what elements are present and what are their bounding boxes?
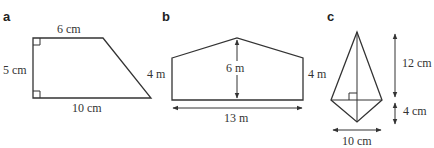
dim-label-base: 13 m <box>224 111 249 125</box>
dim-label-height: 6 m <box>226 61 245 75</box>
right-angle-marker-bottom <box>33 91 40 98</box>
figure-c: c 12 cm 4 cm 10 cm <box>327 9 432 148</box>
diagram-canvas: a 6 cm 5 cm 10 cm b 6 m 4 m 4 m 13 m c 1… <box>0 0 434 148</box>
dim-label-upper: 12 cm <box>402 56 432 70</box>
panel-label-c: c <box>327 9 334 24</box>
dim-label-lower: 4 cm <box>403 104 427 118</box>
figure-b: b 6 m 4 m 4 m 13 m <box>147 9 327 125</box>
panel-label-a: a <box>3 9 11 24</box>
panel-label-b: b <box>162 9 170 24</box>
dim-label-top: 6 cm <box>57 22 81 36</box>
dim-label-right: 4 m <box>308 67 327 81</box>
figure-a: a 6 cm 5 cm 10 cm <box>3 9 151 115</box>
right-angle-marker-top <box>33 38 40 45</box>
dim-label-bottom: 10 cm <box>72 101 102 115</box>
right-angle-marker <box>349 93 357 100</box>
dim-label-left: 5 cm <box>3 63 27 77</box>
trapezoid-shape <box>33 38 151 98</box>
dim-label-width: 10 cm <box>342 134 372 148</box>
dim-label-left: 4 m <box>147 67 166 81</box>
